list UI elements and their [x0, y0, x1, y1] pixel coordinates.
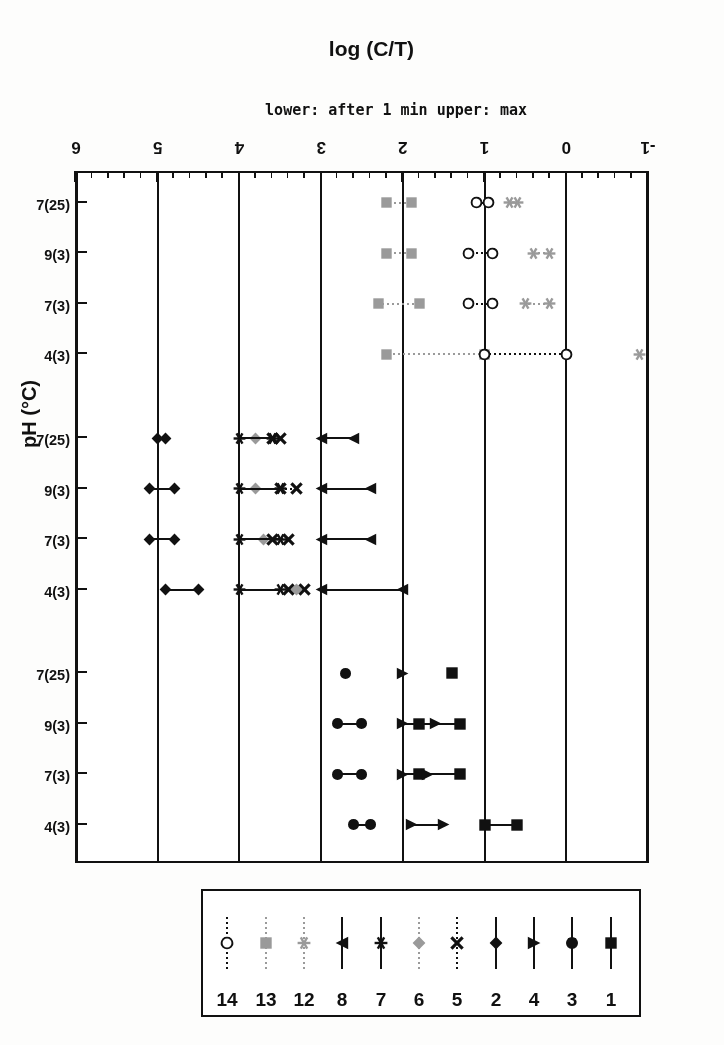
axis-tick — [630, 171, 632, 178]
data-point-marker — [527, 247, 540, 260]
legend-item-12[interactable]: 12 — [286, 891, 322, 1015]
data-point-marker — [510, 818, 524, 832]
legend-item-8[interactable]: 8 — [324, 891, 360, 1015]
legend-item-2[interactable]: 2 — [478, 891, 514, 1015]
category-tick — [76, 251, 87, 253]
gridline — [402, 171, 404, 863]
legend-item-marker-filled-diamond-icon — [478, 917, 514, 969]
x-axis-tick-label: 7(3) — [24, 768, 70, 784]
data-point-marker — [347, 432, 360, 445]
data-point-marker — [274, 482, 287, 495]
legend-marker — [450, 936, 464, 950]
axis-tick — [499, 171, 501, 178]
axis-tick — [418, 171, 420, 178]
axis-tick — [450, 171, 452, 178]
data-point-marker — [356, 717, 369, 730]
legend-item-3[interactable]: 3 — [554, 891, 590, 1015]
gridline — [157, 171, 159, 863]
y-axis-tick-label: 0 — [551, 137, 581, 157]
data-point-marker — [486, 297, 499, 310]
data-point-marker — [274, 583, 287, 596]
legend-item-6[interactable]: 6 — [401, 891, 437, 1015]
data-point-marker — [266, 432, 279, 445]
gridline — [484, 171, 486, 863]
category-tick — [76, 487, 87, 489]
data-point-marker — [380, 348, 393, 361]
data-point-marker — [151, 432, 164, 445]
data-point-marker — [437, 818, 450, 831]
axis-tick — [320, 171, 322, 182]
legend-item-marker-cross-x-icon — [439, 917, 475, 969]
data-point-marker — [331, 768, 344, 781]
axis-tick — [597, 171, 599, 178]
category-tick — [76, 352, 87, 354]
x-axis-tick-label: 7(3) — [24, 533, 70, 549]
gridline — [75, 171, 77, 863]
axis-tick — [238, 171, 240, 182]
data-point-marker — [478, 348, 491, 361]
data-point-marker — [364, 533, 377, 546]
legend-marker — [335, 936, 349, 950]
data-point-marker — [445, 666, 459, 680]
legend-box: 13425678121314 — [201, 889, 641, 1017]
legend-item-label: 14 — [209, 989, 245, 1011]
legend-marker — [412, 936, 426, 950]
data-point-marker — [396, 717, 409, 730]
legend-item-5[interactable]: 5 — [439, 891, 475, 1015]
data-point-marker — [315, 482, 328, 495]
category-tick — [76, 201, 87, 203]
data-point-marker — [396, 583, 409, 596]
axis-tick — [565, 171, 567, 182]
data-point-marker — [543, 247, 556, 260]
data-point-marker — [168, 533, 181, 546]
data-point-marker — [396, 768, 409, 781]
axis-tick — [336, 171, 338, 178]
data-point-marker — [453, 717, 467, 731]
data-point-marker — [396, 667, 409, 680]
legend-item-label: 12 — [286, 989, 322, 1011]
data-point-marker — [405, 247, 418, 260]
y-axis-tick-label: -1 — [633, 137, 663, 157]
legend-marker — [565, 936, 579, 950]
y-axis-tick-label: 3 — [306, 137, 336, 157]
legend-item-marker-filled-circle-icon — [554, 917, 590, 969]
legend-item-13[interactable]: 13 — [248, 891, 284, 1015]
axis-tick — [107, 171, 109, 178]
data-point-marker — [315, 583, 328, 596]
axis-tick — [123, 171, 125, 178]
data-point-marker — [192, 583, 205, 596]
category-tick — [76, 537, 87, 539]
data-point-marker — [503, 196, 516, 209]
data-point-marker — [633, 348, 646, 361]
data-point-marker — [429, 717, 442, 730]
legend-item-1[interactable]: 1 — [593, 891, 629, 1015]
data-point-marker — [168, 482, 181, 495]
data-point-marker — [159, 583, 172, 596]
data-point-marker — [315, 432, 328, 445]
y-axis-tick-label: 6 — [61, 137, 91, 157]
y-axis-title: log (C/T) — [329, 37, 414, 61]
legend-item-7[interactable]: 7 — [363, 891, 399, 1015]
legend-item-4[interactable]: 4 — [516, 891, 552, 1015]
gridline — [320, 171, 322, 863]
gridline — [565, 171, 567, 863]
legend-item-label: 1 — [593, 989, 629, 1011]
data-point-marker — [380, 196, 393, 209]
legend-item-label: 2 — [478, 989, 514, 1011]
x-axis-tick-label: 9(3) — [24, 247, 70, 263]
data-point-marker — [519, 297, 532, 310]
category-tick — [76, 823, 87, 825]
data-point-marker — [290, 583, 303, 596]
data-point-marker — [143, 533, 156, 546]
data-point-marker — [380, 247, 393, 260]
axis-tick — [434, 171, 436, 178]
axis-tick — [646, 171, 648, 182]
data-point-marker — [315, 533, 328, 546]
data-point-marker — [274, 533, 287, 546]
legend-item-marker-right-triangle-icon — [324, 917, 360, 969]
legend-item-14[interactable]: 14 — [209, 891, 245, 1015]
data-point-marker — [482, 196, 495, 209]
legend-item-marker-filled-diamond-icon — [401, 917, 437, 969]
legend-item-marker-star-icon — [363, 917, 399, 969]
legend-marker — [374, 936, 388, 950]
